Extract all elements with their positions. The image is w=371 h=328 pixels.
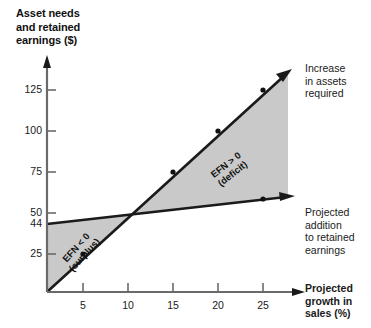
y-tick-label-25: 25	[0, 247, 42, 259]
y-tick-label-44: 44	[0, 217, 42, 229]
data-point-marker	[260, 87, 265, 92]
data-point-marker	[260, 196, 265, 201]
data-point-marker	[170, 169, 175, 174]
x-tick-label-25: 25	[248, 299, 278, 311]
y-tick-label-125: 125	[0, 83, 42, 95]
y-tick-label-75: 75	[0, 165, 42, 177]
chart-plot-area	[0, 0, 371, 328]
annotation-increase-in-assets: Increase in assets required	[305, 62, 346, 100]
annotation-projected-addition: Projected addition to retained earnings	[305, 206, 355, 256]
y-tick-label-100: 100	[0, 124, 42, 136]
x-tick-label-10: 10	[113, 299, 143, 311]
x-axis-title: Projected growth in sales (%)	[305, 282, 353, 320]
data-point-marker	[215, 128, 220, 133]
x-tick-label-20: 20	[203, 299, 233, 311]
x-tick-label-5: 5	[68, 299, 98, 311]
x-tick-label-15: 15	[158, 299, 188, 311]
chart-figure: Asset needs and retained earnings ($)	[0, 0, 371, 328]
x-axis	[47, 283, 305, 296]
